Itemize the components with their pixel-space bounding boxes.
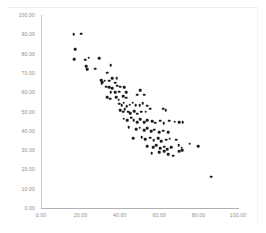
data-point	[132, 137, 135, 140]
data-point	[141, 102, 144, 105]
data-point	[159, 147, 162, 150]
data-point	[139, 118, 142, 121]
data-point	[149, 107, 152, 110]
x-tick-label: 60.00	[142, 212, 176, 218]
data-point	[109, 64, 112, 67]
y-tick-label: 70.00	[5, 70, 35, 76]
data-point	[162, 122, 165, 125]
data-point	[163, 150, 166, 153]
data-point	[120, 104, 123, 107]
data-point	[155, 144, 158, 147]
data-point	[104, 79, 107, 82]
data-point	[153, 128, 156, 131]
data-point	[149, 136, 152, 139]
y-tick-label: 60.00	[5, 89, 35, 95]
data-point	[151, 120, 154, 123]
data-point	[86, 68, 89, 71]
data-point	[128, 103, 131, 106]
data-point	[109, 91, 112, 94]
data-point	[138, 126, 141, 129]
data-point	[182, 121, 185, 124]
data-point	[143, 94, 146, 97]
data-point	[139, 89, 142, 92]
data-point	[172, 155, 175, 158]
data-point	[152, 146, 155, 149]
data-point	[123, 86, 126, 89]
x-tick-label: 80.00	[182, 212, 216, 218]
data-point	[94, 68, 97, 71]
data-point	[157, 137, 160, 140]
data-point	[150, 152, 153, 155]
data-point	[129, 112, 132, 115]
data-point	[175, 138, 178, 141]
data-point	[168, 119, 171, 122]
data-point	[178, 121, 181, 124]
data-point	[158, 151, 161, 154]
data-point	[145, 110, 148, 113]
data-point	[109, 97, 112, 100]
data-point	[135, 128, 138, 131]
data-point	[170, 146, 173, 149]
data-point	[73, 58, 76, 61]
y-tick-label: 100.00	[5, 12, 35, 18]
x-axis-line	[41, 208, 239, 209]
data-point	[114, 91, 117, 94]
x-tick-label: 20.00	[63, 212, 97, 218]
data-point	[197, 145, 200, 148]
data-point	[188, 142, 191, 145]
data-point	[132, 119, 135, 122]
data-point	[153, 139, 156, 142]
data-point	[122, 110, 125, 113]
y-tick-label: 30.00	[5, 147, 35, 153]
data-point	[144, 138, 147, 141]
data-point	[143, 129, 146, 132]
data-point	[116, 77, 119, 80]
data-point	[133, 110, 136, 113]
x-tick-label: 40.00	[103, 212, 137, 218]
data-point	[123, 108, 126, 111]
data-point	[165, 139, 168, 142]
data-point	[154, 121, 157, 124]
y-tick-label: 40.00	[5, 128, 35, 134]
data-point	[74, 48, 77, 51]
y-tick-label: 10.00	[5, 186, 35, 192]
data-point	[173, 120, 176, 123]
data-point	[125, 97, 128, 100]
y-tick-label: 0.00	[5, 205, 35, 211]
data-point	[162, 130, 165, 133]
y-tick-label: 90.00	[5, 31, 35, 37]
data-point	[146, 145, 149, 148]
data-point	[87, 57, 90, 60]
data-point	[118, 90, 121, 93]
y-tick-label: 20.00	[5, 166, 35, 172]
data-point	[106, 72, 109, 75]
y-tick-label: 50.00	[5, 109, 35, 115]
data-point	[101, 83, 104, 86]
data-point	[146, 127, 149, 130]
data-point	[136, 113, 139, 116]
data-point	[117, 98, 120, 101]
data-point	[127, 126, 130, 129]
data-point	[111, 77, 114, 80]
data-point	[164, 109, 167, 112]
data-point	[138, 104, 141, 107]
data-point	[108, 79, 111, 82]
scatter-chart: 0.0010.0020.0030.0040.0050.0060.0070.008…	[0, 0, 266, 233]
data-point	[158, 131, 161, 134]
data-point	[80, 32, 83, 35]
data-point	[84, 58, 87, 61]
data-point	[163, 145, 166, 148]
data-point	[169, 137, 172, 140]
data-point	[159, 119, 162, 122]
x-tick-label: 0.00	[24, 212, 58, 218]
y-tick-label: 80.00	[5, 51, 35, 57]
data-point	[167, 153, 170, 156]
x-tick-label: 100.00	[221, 212, 255, 218]
data-point	[210, 175, 213, 178]
data-point	[98, 57, 101, 60]
data-point	[136, 93, 139, 96]
data-point	[136, 121, 139, 124]
data-point	[122, 102, 125, 105]
data-point	[134, 104, 137, 107]
data-point	[141, 136, 144, 139]
